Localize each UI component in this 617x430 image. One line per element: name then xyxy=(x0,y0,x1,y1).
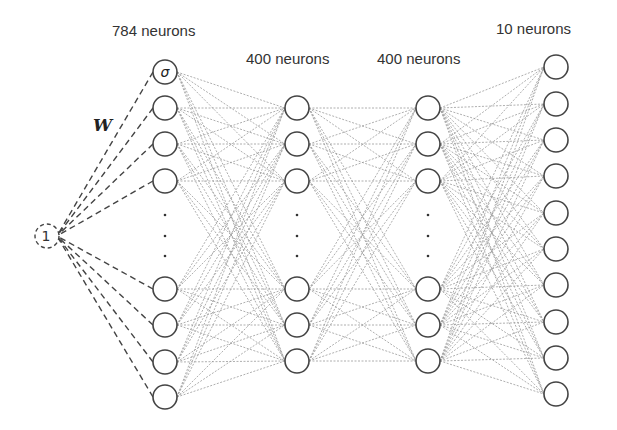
layer-label-hidden2: 400 neurons xyxy=(377,50,460,67)
neuron-node xyxy=(416,313,440,337)
neuron-node xyxy=(153,169,177,193)
connection-edge xyxy=(177,325,285,361)
ellipsis-dot xyxy=(164,214,167,217)
neuron-node xyxy=(285,313,309,337)
neuron-node xyxy=(544,164,568,188)
connection-edge xyxy=(440,108,544,249)
connection-edge xyxy=(440,67,544,108)
connection-edge xyxy=(309,181,416,361)
neuron-node xyxy=(544,201,568,225)
layer-label-output: 10 neurons xyxy=(496,20,571,37)
connection-edge xyxy=(177,181,285,325)
bias-weight-edge xyxy=(57,236,153,397)
neuron-node xyxy=(153,132,177,156)
neuron-node xyxy=(544,346,568,370)
neuron-node xyxy=(416,96,440,120)
neuron-node xyxy=(416,169,440,193)
connection-edge xyxy=(177,325,285,362)
layer-label-hidden1: 400 neurons xyxy=(246,50,329,67)
connection-edge xyxy=(177,181,285,325)
neuron-node xyxy=(416,349,440,373)
connection-edge xyxy=(177,289,285,362)
ellipsis-dot xyxy=(427,214,430,217)
neuron-node xyxy=(285,96,309,120)
ellipsis-dot xyxy=(296,214,299,217)
ellipsis-dot xyxy=(427,235,430,238)
ellipsis-dot xyxy=(164,255,167,258)
weight-label: W xyxy=(93,115,112,135)
neuron-node xyxy=(544,310,568,334)
neuron-node xyxy=(285,132,309,156)
connection-edges xyxy=(177,67,544,397)
neuron-node xyxy=(285,169,309,193)
connection-edge xyxy=(440,181,544,358)
connection-edge xyxy=(309,108,416,361)
sigma-symbol: σ xyxy=(161,64,171,80)
layer-label-input: 784 neurons xyxy=(112,22,195,39)
neuron-node xyxy=(153,313,177,337)
neuron-node xyxy=(544,382,568,406)
connection-edge xyxy=(177,108,285,144)
bias-weight-edge xyxy=(57,144,153,236)
connection-edge xyxy=(440,181,544,394)
neuron-node xyxy=(416,132,440,156)
connection-edge xyxy=(440,361,544,394)
neuron-node xyxy=(544,128,568,152)
connection-edge xyxy=(440,176,544,361)
ellipsis-dot xyxy=(296,235,299,238)
connection-edge xyxy=(177,72,285,181)
connection-edge xyxy=(440,322,544,325)
bias-node: 1 xyxy=(35,224,59,248)
connection-edge xyxy=(440,289,544,394)
connection-edge xyxy=(440,181,544,322)
connection-edge xyxy=(440,358,544,361)
ellipsis-dot xyxy=(427,255,430,258)
neuron-node xyxy=(544,55,568,79)
connection-edge xyxy=(440,213,544,289)
connection-edge xyxy=(177,72,285,108)
bias-weight-edge xyxy=(57,72,153,236)
connection-edge xyxy=(440,289,544,358)
connection-edge xyxy=(177,72,285,361)
layer-ellipsis-dots xyxy=(164,214,430,258)
connection-edge xyxy=(309,181,416,361)
connection-edge xyxy=(177,144,285,397)
neuron-node xyxy=(153,385,177,409)
neuron-node xyxy=(153,96,177,120)
bias-weight-edge xyxy=(57,236,153,325)
connection-edge xyxy=(177,72,285,289)
connection-edge xyxy=(177,361,285,397)
connection-edge xyxy=(440,285,544,361)
connection-edge xyxy=(440,67,544,289)
connection-edge xyxy=(440,140,544,325)
bias-weight-edge xyxy=(57,236,153,362)
neuron-node xyxy=(544,273,568,297)
connection-edge xyxy=(440,249,544,325)
connection-edge xyxy=(177,108,285,397)
neuron-node xyxy=(416,277,440,301)
neuron-node xyxy=(153,350,177,374)
connection-edge xyxy=(177,289,285,325)
neuron-node xyxy=(153,277,177,301)
neuron-node xyxy=(285,349,309,373)
neuron-node xyxy=(285,277,309,301)
ellipsis-dot xyxy=(164,235,167,238)
neuron-node xyxy=(544,92,568,116)
ellipsis-dot xyxy=(296,255,299,258)
connection-edge xyxy=(440,325,544,394)
neuron-node xyxy=(544,237,568,261)
bias-label: 1 xyxy=(42,228,51,244)
